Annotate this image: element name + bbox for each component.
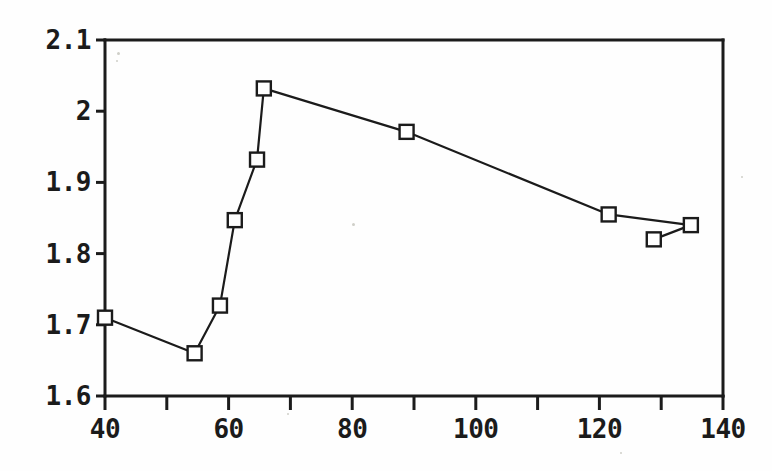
x-tick-label: 60: [213, 416, 243, 442]
y-tick-label: 1.6: [46, 383, 91, 409]
y-tick-label: 1.7: [46, 312, 91, 338]
data-point-marker: [98, 311, 112, 325]
x-tick-label: 40: [90, 416, 120, 442]
data-point-marker: [647, 232, 661, 246]
data-point-marker: [684, 218, 698, 232]
data-point-marker: [400, 125, 414, 139]
data-point-marker: [257, 81, 271, 95]
y-tick-label: 2.1: [46, 27, 91, 53]
chart-container: 1.61.71.81.922.1 406080100120140: [0, 0, 772, 471]
y-tick-label: 1.9: [46, 169, 91, 195]
x-tick-label: 120: [577, 416, 622, 442]
y-tick-label: 2: [76, 98, 91, 124]
data-point-marker: [188, 346, 202, 360]
data-point-marker: [250, 153, 264, 167]
data-point-marker: [602, 207, 616, 221]
data-point-markers: [98, 81, 698, 360]
line-chart-plot: [0, 0, 772, 471]
data-point-marker: [213, 299, 227, 313]
x-tick-label: 140: [700, 416, 745, 442]
y-tick-label: 1.8: [46, 241, 91, 267]
x-tick-label: 80: [337, 416, 367, 442]
data-point-marker: [228, 213, 242, 227]
x-tick-label: 100: [453, 416, 498, 442]
